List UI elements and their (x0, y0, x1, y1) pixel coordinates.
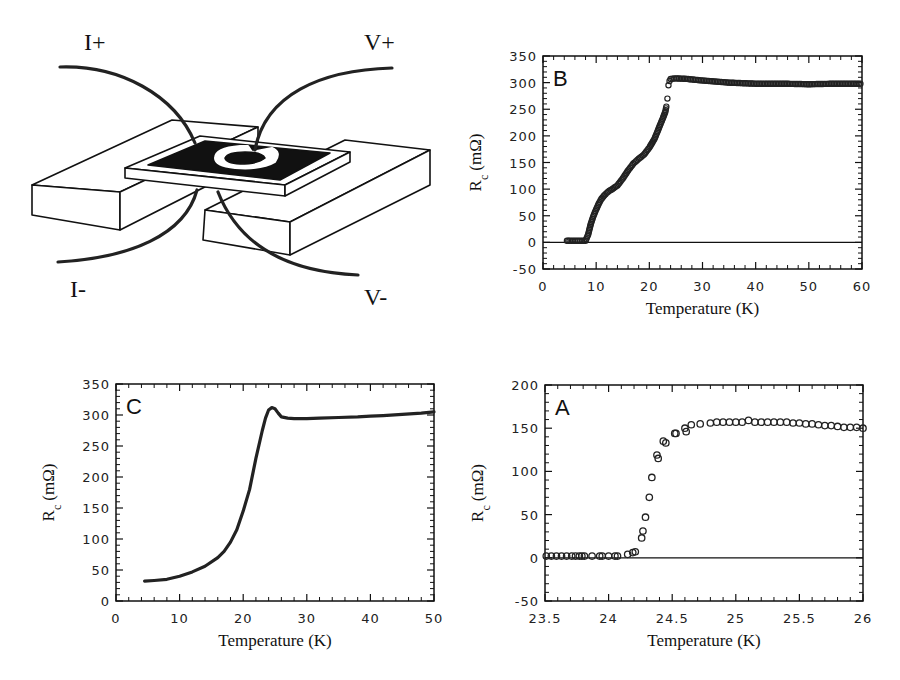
x-tick-label: 25 (727, 611, 746, 626)
x-axis-title: Temperature (K) (218, 631, 332, 650)
x-tick-label: 40 (361, 611, 380, 626)
y-tick-label: 50 (91, 563, 110, 578)
data-point (714, 419, 720, 425)
x-tick-label: 60 (853, 279, 872, 294)
y-tick-label: 150 (509, 156, 537, 171)
data-point (752, 419, 758, 425)
x-tick-label: 30 (693, 279, 712, 294)
data-point (822, 422, 828, 428)
x-tick-label: 30 (298, 611, 317, 626)
x-tick-label: 10 (170, 611, 189, 626)
y-tick-label: 0 (530, 551, 539, 566)
y-tick-label: 250 (509, 102, 537, 117)
data-point (815, 422, 821, 428)
data-point (642, 514, 648, 520)
y-tick-label: 350 (509, 49, 537, 64)
data-point (707, 420, 713, 426)
plot-frame (543, 56, 862, 269)
data-point (841, 424, 847, 430)
y-tick-label: 150 (511, 421, 539, 436)
x-tick-label: 50 (425, 611, 444, 626)
y-tick-label: 250 (82, 439, 110, 454)
data-point (771, 419, 777, 425)
panel-letter: C (126, 394, 142, 419)
plot-frame (545, 385, 863, 601)
y-tick-label: 200 (82, 470, 110, 485)
x-tick-label: 25.5 (783, 611, 816, 626)
x-tick-label: 50 (800, 279, 819, 294)
data-point (803, 421, 809, 427)
label-v-minus: V- (364, 284, 387, 310)
sample-contact-diagram (32, 67, 430, 275)
y-tick-label: 100 (511, 464, 539, 479)
chart-panel-a: 23.52424.52525.526-50050100150200ATemper… (468, 378, 872, 650)
data-point (638, 535, 644, 541)
x-tick-label: 10 (587, 279, 606, 294)
data-point (688, 422, 694, 428)
y-tick-label: 100 (82, 532, 110, 547)
data-point (847, 424, 853, 430)
y-tick-label: 50 (520, 508, 539, 523)
x-tick-label: 24 (599, 611, 618, 626)
data-curve (145, 408, 434, 582)
x-axis-title: Temperature (K) (647, 631, 761, 650)
data-point (828, 422, 834, 428)
wire-v-plus (255, 68, 392, 150)
y-axis-title: Rc(mΩ) (466, 134, 491, 192)
data-point (790, 420, 796, 426)
data-point (745, 417, 751, 423)
data-point (646, 494, 652, 500)
y-tick-label: 100 (509, 182, 537, 197)
x-axis-title: Temperature (K) (646, 299, 760, 318)
y-tick-label: -50 (513, 262, 537, 277)
y-tick-label: 300 (82, 408, 110, 423)
data-point (764, 419, 770, 425)
x-tick-label: 40 (746, 279, 765, 294)
data-point (649, 474, 655, 480)
label-i-minus: I- (70, 276, 86, 302)
data-point (758, 419, 764, 425)
panel-letter: A (555, 395, 570, 420)
y-tick-label: -50 (515, 594, 539, 609)
x-tick-label: 0 (111, 611, 120, 626)
y-tick-label: 0 (101, 594, 110, 609)
panel-letter: B (553, 66, 568, 91)
data-point (783, 419, 789, 425)
data-point (726, 419, 732, 425)
data-point (777, 419, 783, 425)
data-point (733, 419, 739, 425)
y-tick-label: 150 (82, 501, 110, 516)
y-tick-label: 0 (528, 235, 537, 250)
y-tick-label: 350 (82, 377, 110, 392)
chart-panel-b: 0102030405060-50050100150200250300350BTe… (466, 49, 871, 318)
data-point (697, 421, 703, 427)
x-tick-label: 0 (538, 279, 547, 294)
x-tick-label: 24.5 (656, 611, 689, 626)
data-point (739, 419, 745, 425)
data-point (834, 423, 840, 429)
y-axis-title: Rc(mΩ) (468, 464, 493, 522)
data-point (796, 420, 802, 426)
x-tick-label: 26 (854, 611, 873, 626)
y-axis-title: Rc(mΩ) (39, 464, 64, 522)
data-point (640, 528, 646, 534)
y-tick-label: 300 (509, 76, 537, 91)
figure: I+ V+ I- V- 0102030405060-50050100150200… (0, 0, 900, 680)
data-point (853, 424, 859, 430)
label-v-plus: V+ (364, 29, 395, 55)
x-tick-label: 20 (640, 279, 659, 294)
label-i-plus: I+ (84, 29, 106, 55)
y-tick-label: 200 (509, 129, 537, 144)
data-point (720, 419, 726, 425)
y-tick-label: 50 (518, 209, 537, 224)
x-tick-label: 20 (234, 611, 253, 626)
data-point (809, 421, 815, 427)
chart-panel-c: 01020304050050100150200250300350CTempera… (39, 377, 443, 650)
x-tick-label: 23.5 (529, 611, 562, 626)
y-tick-label: 200 (511, 378, 539, 393)
